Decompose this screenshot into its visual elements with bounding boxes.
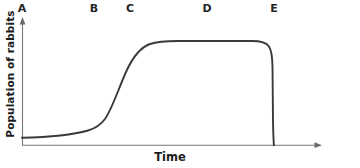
x-axis-title: Time [154,150,186,164]
chart-canvas [0,0,360,168]
x-axis-arrowhead [315,142,323,148]
phase-label-d: D [197,3,217,15]
population-growth-chart: A B C D E Population of rabbits Time [0,0,360,168]
population-curve [22,41,274,145]
y-axis [20,17,26,145]
phase-label-e: E [264,3,284,15]
y-axis-arrowhead [20,17,26,25]
y-axis-title: Population of rabbits [3,6,17,142]
x-axis [22,142,322,148]
x-axis-title-wrap: Time [0,150,360,164]
phase-label-b: B [84,3,104,15]
phase-label-c: C [120,3,140,15]
